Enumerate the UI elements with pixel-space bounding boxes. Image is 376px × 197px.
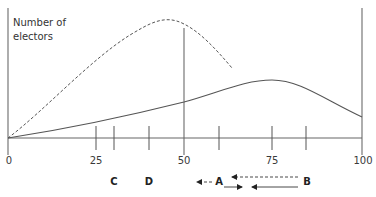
arrows — [197, 177, 298, 187]
position-label-c: C — [110, 176, 117, 187]
position-label-b: B — [303, 176, 311, 187]
x-tick-label-100: 100 — [353, 155, 372, 166]
y-axis-label-line1: Number of — [13, 16, 66, 30]
y-axis-label: Number of electors — [13, 16, 66, 44]
position-label-d: D — [145, 176, 153, 187]
position-label-a: A — [215, 176, 223, 187]
x-tick-label-25: 25 — [90, 155, 103, 166]
x-tick-label-75: 75 — [266, 155, 279, 166]
y-axis-label-line2: electors — [13, 30, 66, 44]
x-tick-label-0: 0 — [6, 155, 12, 166]
x-tick-label-50: 50 — [178, 155, 191, 166]
solid-distribution-curve — [8, 80, 362, 138]
